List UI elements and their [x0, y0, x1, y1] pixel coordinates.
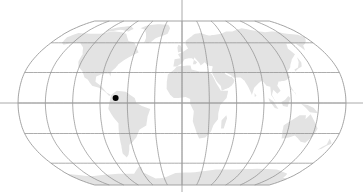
- land-sri-lanka: [255, 93, 257, 97]
- location-marker[interactable]: [113, 95, 119, 101]
- land-australia: [282, 114, 318, 143]
- land-greenland: [140, 24, 170, 43]
- land-south-america: [108, 91, 150, 158]
- marker-layer: [113, 95, 119, 101]
- land-borneo: [281, 96, 290, 107]
- land-antarctica: [67, 167, 287, 185]
- map-canvas[interactable]: [0, 0, 363, 192]
- world-map: [0, 0, 363, 192]
- land-indonesia-sumatra: [268, 98, 278, 109]
- land-japan: [295, 57, 302, 71]
- land-new-guinea: [301, 104, 318, 113]
- land-north-america: [62, 31, 139, 96]
- land-madagascar: [221, 115, 227, 128]
